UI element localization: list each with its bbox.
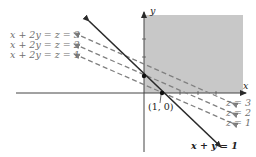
x-axis-label: x: [243, 81, 248, 91]
level-label-left-z1: x + 2y = z = 1: [10, 50, 80, 60]
point-label-1-0: (1, 0): [148, 102, 174, 112]
level-label-right-z1: z = 1: [226, 118, 251, 128]
y-axis-label: y: [150, 6, 155, 16]
constraint-line-label: x + y = 1: [191, 141, 238, 151]
diagram-graphics: [0, 0, 256, 157]
feasible-region: [144, 15, 243, 93]
point-0-1: [142, 74, 146, 78]
lp-diagram: y x x + 2y = z = 3 x + 2y = z = 2 x + 2y…: [0, 0, 256, 157]
point-1-0: [160, 91, 164, 95]
